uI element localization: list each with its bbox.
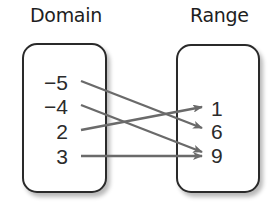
domain-value-neg4: −4	[44, 96, 68, 117]
range-title: Range	[190, 4, 249, 26]
domain-value-neg5: −5	[44, 72, 68, 93]
range-value-6: 6	[211, 121, 223, 142]
domain-title: Domain	[30, 4, 102, 26]
domain-value-2: 2	[56, 121, 68, 142]
domain-value-3: 3	[56, 146, 68, 167]
range-value-9: 9	[211, 145, 223, 166]
range-value-1: 1	[211, 98, 223, 119]
domain-set-box	[22, 43, 107, 193]
